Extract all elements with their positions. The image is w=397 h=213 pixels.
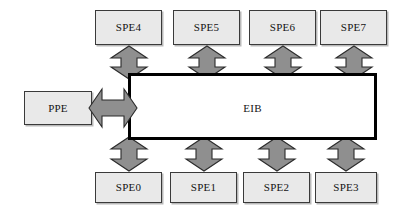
spe3-label: SPE3: [333, 182, 358, 193]
spe0-box[interactable]: SPE0: [95, 172, 162, 203]
spe6-box[interactable]: SPE6: [249, 10, 316, 45]
spe5-label: SPE5: [194, 22, 219, 33]
spe5-box[interactable]: SPE5: [173, 10, 240, 45]
ppe-box[interactable]: PPE: [24, 91, 92, 125]
spe1-label: SPE1: [191, 182, 216, 193]
ppe-eib-link-arrow[interactable]: [88, 88, 138, 128]
spe0-eib-link-arrow[interactable]: [110, 136, 148, 172]
spe4-label: SPE4: [116, 22, 141, 33]
spe4-box[interactable]: SPE4: [95, 10, 162, 45]
eib-label: EIB: [243, 102, 262, 114]
spe2-eib-link-arrow[interactable]: [258, 136, 296, 172]
spe6-label: SPE6: [270, 22, 295, 33]
eib-label-container: EIB: [131, 98, 374, 116]
ppe-label: PPE: [48, 103, 68, 114]
spe1-eib-link-arrow[interactable]: [185, 136, 223, 172]
spe3-box[interactable]: SPE3: [315, 172, 377, 203]
spe7-box[interactable]: SPE7: [320, 10, 387, 45]
eib-bus-box[interactable]: EIB: [128, 73, 377, 140]
spe2-box[interactable]: SPE2: [243, 172, 310, 203]
spe1-box[interactable]: SPE1: [170, 172, 237, 203]
spe2-label: SPE2: [264, 182, 289, 193]
spe0-label: SPE0: [116, 182, 141, 193]
spe3-eib-link-arrow[interactable]: [327, 136, 365, 172]
cell-architecture-diagram: EIB SPE4 SPE5 SPE6 SPE7 SPE0 SPE1 SPE2 S…: [0, 0, 397, 213]
spe7-label: SPE7: [341, 22, 366, 33]
